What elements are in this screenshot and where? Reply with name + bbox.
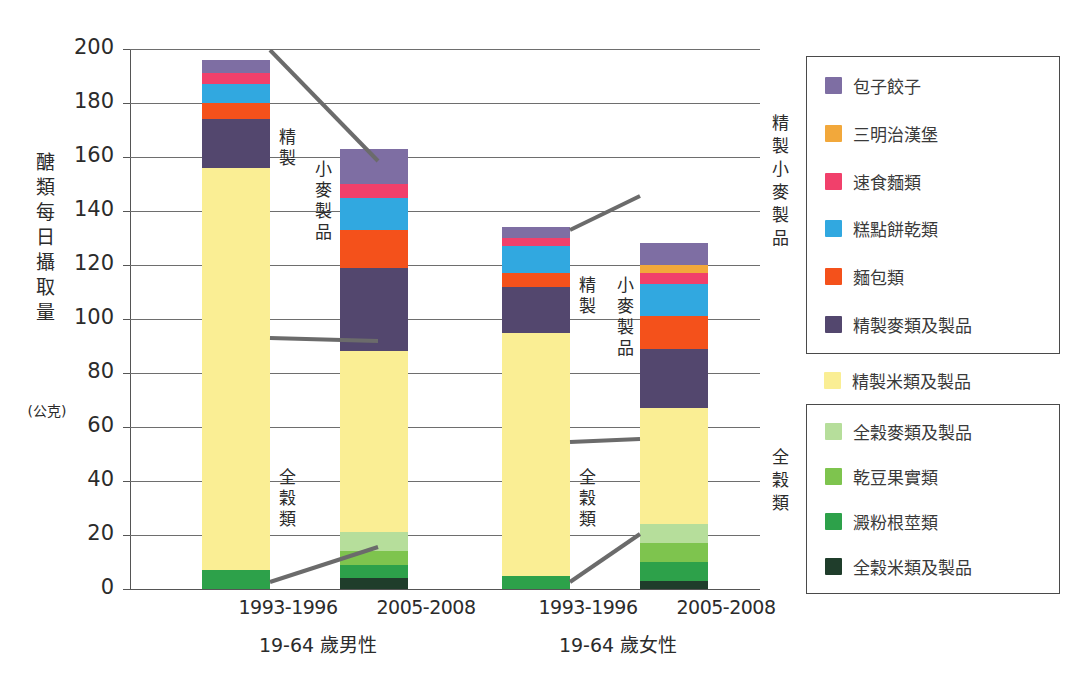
legend-group-label-refined-wheat: 精製小麥製品 [768, 112, 792, 250]
legend-label: 澱粉根莖類 [853, 509, 938, 534]
legend-box-whole-grain: 全穀麥類及製品乾豆果實類澱粉根莖類全穀米類及製品 [806, 404, 1060, 594]
y-axis-tick-label: 20 [60, 521, 114, 545]
y-axis-tick-label: 80 [60, 359, 114, 383]
legend-swatch [825, 513, 842, 530]
y-axis-title-char: 取 [26, 275, 66, 300]
x-axis-tick-label: 2005-2008 [641, 596, 811, 618]
x-axis-group-label: 19-64 歲男性 [188, 630, 448, 657]
legend-label: 麵包類 [853, 264, 904, 289]
y-axis-tick-label: 60 [60, 413, 114, 437]
legend-group-label-whole-grain: 全穀類 [768, 446, 792, 515]
legend-item-rw-5[interactable]: 精製麥類及製品 [825, 312, 1059, 337]
legend-group-label-char: 製 [768, 204, 792, 227]
legend-group-label-char: 全 [768, 446, 792, 469]
legend-item-rw-1[interactable]: 三明治漢堡 [825, 121, 1059, 146]
legend-group-label-char: 精 [768, 112, 792, 135]
plot-area: 200180160140120100806040200 精製小麥製品全穀類精製小… [130, 49, 760, 589]
y-axis-tickmark [123, 535, 130, 536]
y-axis-title: 醣類每日攝取量 [26, 150, 66, 325]
legend-swatch [825, 125, 842, 142]
y-axis-tickmark [123, 211, 130, 212]
legend-swatch [824, 372, 841, 389]
legend-swatch [825, 220, 842, 237]
y-axis-tick-label: 160 [60, 143, 114, 167]
y-axis-tickmark [123, 481, 130, 482]
y-axis-tickmark [123, 373, 130, 374]
legend-swatch [825, 77, 842, 94]
legend-group-label-char: 品 [768, 227, 792, 250]
y-axis-tickmark [123, 103, 130, 104]
y-axis-tickmark [123, 319, 130, 320]
legend-item-wg-2[interactable]: 澱粉根莖類 [825, 509, 1059, 534]
x-axis-group-label: 19-64 歲女性 [488, 630, 748, 657]
legend-label: 糕點餅乾類 [853, 216, 938, 241]
legend-swatch [825, 558, 842, 575]
legend-swatch [825, 316, 842, 333]
y-axis-tick-label: 0 [60, 575, 114, 599]
legend-item-wg-3[interactable]: 全穀米類及製品 [825, 554, 1059, 579]
x-axis-tick-label: 2005-2008 [341, 596, 511, 618]
y-axis-tickmark [123, 49, 130, 50]
legend-swatch [825, 423, 842, 440]
legend-item-wg-0[interactable]: 全穀麥類及製品 [825, 419, 1059, 444]
legend-label: 速食麵類 [853, 169, 921, 194]
legend-box-refined-wheat: 包子餃子三明治漢堡速食麵類糕點餅乾類麵包類精製麥類及製品 [806, 56, 1060, 354]
y-axis-tickmark [123, 265, 130, 266]
y-axis-tick-label: 120 [60, 251, 114, 275]
legend-item-rw-4[interactable]: 麵包類 [825, 264, 1059, 289]
legend-group-label-char: 類 [768, 492, 792, 515]
legend-item-rw-2[interactable]: 速食麵類 [825, 169, 1059, 194]
y-axis-tick-label: 140 [60, 197, 114, 221]
y-axis-tickmark [123, 589, 130, 590]
y-axis-tick-label: 200 [60, 35, 114, 59]
legend-label: 全穀米類及製品 [853, 554, 972, 579]
legend-item-rw-3[interactable]: 糕點餅乾類 [825, 216, 1059, 241]
legend-label: 三明治漢堡 [853, 121, 938, 146]
legend-label: 包子餃子 [853, 73, 921, 98]
legend-swatch [825, 173, 842, 190]
legend-item-wg-1[interactable]: 乾豆果實類 [825, 464, 1059, 489]
legend-standalone-refined-rice: 精製米類及製品 [824, 368, 971, 393]
y-axis-title-char: 日 [26, 225, 66, 250]
annotation-leader-lines [130, 49, 760, 589]
legend-item-rw-0[interactable]: 包子餃子 [825, 73, 1059, 98]
legend-group-label-char: 麥 [768, 181, 792, 204]
legend-label: 精製米類及製品 [852, 368, 971, 393]
gridline [130, 589, 760, 590]
legend-swatch [825, 468, 842, 485]
y-axis-tick-label: 100 [60, 305, 114, 329]
legend-item-rice-0[interactable]: 精製米類及製品 [824, 368, 971, 393]
y-axis-tickmark [123, 427, 130, 428]
legend-label: 全穀麥類及製品 [853, 419, 972, 444]
carbohydrate-intake-stacked-bar-chart: 醣類每日攝取量 (公克) 200180160140120100806040200… [0, 0, 1067, 683]
legend-swatch [825, 268, 842, 285]
legend-group-label-char: 小 [768, 158, 792, 181]
legend-label: 乾豆果實類 [853, 464, 938, 489]
y-axis-tick-label: 180 [60, 89, 114, 113]
legend-label: 精製麥類及製品 [853, 312, 972, 337]
y-axis-tick-label: 40 [60, 467, 114, 491]
y-axis-tickmark [123, 157, 130, 158]
legend-group-label-char: 製 [768, 135, 792, 158]
legend-group-label-char: 穀 [768, 469, 792, 492]
